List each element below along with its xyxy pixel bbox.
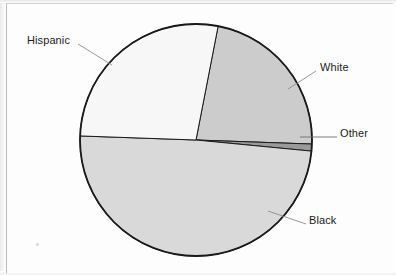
pie-label-hispanic: Hispanic xyxy=(27,34,70,46)
leader-line-hispanic xyxy=(78,44,112,65)
pie-label-white: White xyxy=(320,61,349,73)
scan-speck xyxy=(36,243,39,246)
pie-slice-black xyxy=(80,136,311,256)
pie-slice-group xyxy=(80,24,312,256)
pie-label-black: Black xyxy=(309,214,336,226)
pie-label-other: Other xyxy=(340,127,368,139)
pie-slice-hispanic xyxy=(80,24,218,140)
pie-chart-figure: Hispanic White Other Black xyxy=(0,0,396,275)
